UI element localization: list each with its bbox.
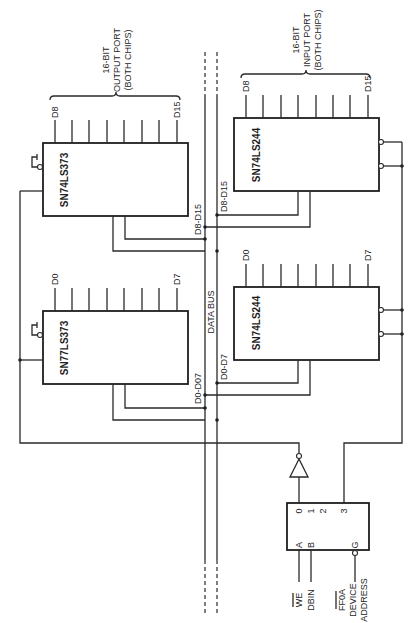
output-chip-high <box>20 120 205 251</box>
input-port-title-3: (BOTH CHIPS) <box>313 9 323 70</box>
input-chip-high-first-pin: D8 <box>241 80 251 92</box>
output-chip-high-first-pin: D8 <box>50 106 60 118</box>
output-chip-high-last-pin: D15 <box>172 101 182 118</box>
input-chip-high <box>205 95 404 227</box>
input-port-title-1: 16-BIT <box>291 26 301 54</box>
decoder-out-3: 3 <box>339 508 349 513</box>
data-bus-label: DATA BUS <box>206 290 216 333</box>
signal-address-1: FF0A <box>337 589 347 611</box>
signal-address-2: DEVICE <box>348 583 358 617</box>
input-chip-high-part: SN74LS244 <box>251 127 262 182</box>
input-chip-low <box>205 264 404 395</box>
signal-address-3: ADDRESS <box>359 578 369 622</box>
decoder-in-b: B <box>306 542 316 548</box>
decoder-out-2: 2 <box>318 508 328 513</box>
output-chip-high-part: SN74LS373 <box>59 152 70 207</box>
input-port-title-2: INPUT PORT <box>302 12 312 67</box>
decoder-out-1: 1 <box>306 508 316 513</box>
output-port-title-1: 16-BIT <box>101 46 111 74</box>
output-port-title-2: OUTPUT PORT <box>112 27 122 92</box>
output-port-title-3: (BOTH CHIPS) <box>123 29 133 90</box>
output-chip-low <box>18 288 205 420</box>
decoder-enable-g: G <box>350 541 360 548</box>
output-chip-low-bus-label: D0-D07 <box>193 373 203 404</box>
input-chip-low-bus-label: D0-D7 <box>219 354 229 380</box>
output-chip-low-first-pin: D0 <box>50 273 60 285</box>
input-chip-high-last-pin: D15 <box>363 75 373 92</box>
input-chip-low-part: SN74LS244 <box>251 295 262 350</box>
signal-we: WE <box>294 593 304 608</box>
output-chip-low-part: SN77LS373 <box>59 320 70 375</box>
output-port-brace <box>50 92 180 100</box>
output-chip-low-last-pin: D7 <box>172 273 182 285</box>
signal-dbin: DBIN <box>306 589 316 611</box>
output-chip-high-bus-label: D8-D15 <box>193 204 203 235</box>
input-chip-low-first-pin: D0 <box>241 249 251 261</box>
inverter <box>290 454 308 504</box>
decoder-in-a: A <box>294 542 304 548</box>
decoder-out-0: 0 <box>294 508 304 513</box>
input-chip-low-last-pin: D7 <box>363 249 373 261</box>
circuit-schematic: DATA BUS SN74LS373 D8 D15 D8-D15 16-BIT … <box>0 0 418 623</box>
input-port-brace <box>241 70 370 78</box>
input-chip-high-bus-label: D8-D15 <box>219 181 229 212</box>
